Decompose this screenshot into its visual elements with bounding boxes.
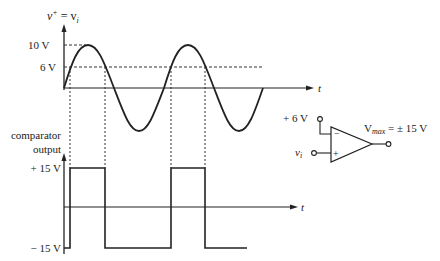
tick-minus-15v: − 15 V [31, 242, 62, 254]
top-plot: t v+ = vi 10 V 6 V [28, 8, 322, 131]
inverting-sign: − [334, 128, 340, 139]
ref-terminal-icon [318, 117, 323, 122]
input-terminal-icon [312, 151, 317, 156]
top-y-arrow-icon [62, 24, 67, 32]
output-terminal-icon [386, 142, 391, 147]
bottom-y-arrow-icon [62, 153, 67, 161]
tick-6v: 6 V [40, 61, 56, 73]
bottom-plot: comparator output t + 15 V − 15 V [11, 129, 305, 254]
bottom-x-label: t [301, 201, 305, 213]
bottom-y-label-line2: output [33, 143, 61, 155]
noninverting-sign: + [333, 148, 339, 159]
top-y-label: v+ = vi [47, 8, 79, 25]
top-x-arrow-icon [306, 86, 314, 91]
square-wave [64, 168, 247, 248]
tick-plus-15v: + 15 V [31, 162, 62, 174]
bottom-y-label-line1: comparator [11, 129, 61, 141]
ref-voltage-label: + 6 V [283, 112, 308, 124]
opamp-schematic: + 6 V vi − + Vmax = ± 15 V [283, 112, 427, 162]
input-label: vi [295, 146, 302, 160]
ref-wire [320, 122, 331, 135]
tick-10v: 10 V [28, 39, 50, 51]
vmax-label: Vmax = ± 15 V [364, 122, 427, 136]
bottom-x-arrow-icon [290, 205, 298, 210]
projection-lines [70, 67, 205, 168]
top-x-label: t [318, 82, 322, 94]
comparator-diagram: t v+ = vi 10 V 6 V comparator output t +… [0, 0, 440, 261]
